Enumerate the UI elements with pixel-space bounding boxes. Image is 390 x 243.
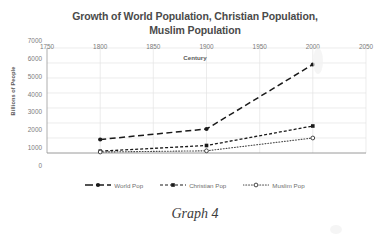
legend-swatch-christian-pop: [160, 181, 186, 189]
chart-title-line-2: Muslim Population: [40, 23, 350, 37]
legend-swatch-world-pop: [85, 181, 111, 189]
x-tick-label: 1900: [187, 43, 227, 50]
plot-area: Billions of People 0 1000 2000 3000 4000…: [0, 40, 390, 165]
x-axis-title: Century: [0, 54, 390, 61]
chart-title-line-1: Growth of World Population, Christian Po…: [40, 9, 350, 23]
legend-label-world-pop: World Pop: [114, 182, 143, 189]
x-tick-label: 1950: [240, 43, 280, 50]
legend-swatch-muslim-pop: [243, 181, 269, 189]
legend-item-christian-pop[interactable]: Christian Pop: [160, 181, 226, 189]
x-tick-label: 1850: [133, 43, 173, 50]
x-tick-label: 1800: [80, 43, 120, 50]
scan-artifact: [330, 225, 342, 234]
chart-title: Growth of World Population, Christian Po…: [40, 9, 350, 37]
legend-item-muslim-pop[interactable]: Muslim Pop: [243, 181, 304, 189]
legend-label-christian-pop: Christian Pop: [189, 182, 226, 189]
chart-legend: World Pop Christian Pop Muslim Pop: [0, 181, 390, 189]
x-tick-label: 2050: [346, 43, 386, 50]
x-tick-label: 2000: [293, 43, 333, 50]
x-tick-label: 1750: [27, 43, 67, 50]
figure-caption: Graph 4: [0, 206, 390, 222]
scan-artifact: [313, 48, 323, 74]
legend-label-muslim-pop: Muslim Pop: [272, 182, 304, 189]
figure: Growth of World Population, Christian Po…: [0, 0, 390, 243]
legend-item-world-pop[interactable]: World Pop: [85, 181, 143, 189]
vertical-gridlines: [100, 48, 366, 153]
